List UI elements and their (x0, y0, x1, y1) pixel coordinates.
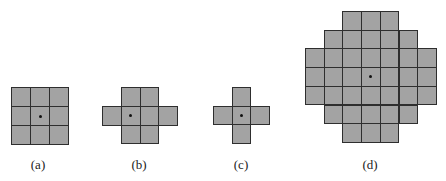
grid-cell (380, 67, 400, 87)
grid-cell (342, 123, 362, 143)
panel-b-label: (b) (131, 157, 146, 173)
grid-cell (380, 86, 400, 106)
grid-cell (305, 48, 325, 68)
grid-cell (361, 30, 381, 50)
grid-cell (399, 30, 419, 50)
grid-cell (361, 105, 381, 125)
grid-cell (324, 67, 344, 87)
grid-cell (102, 106, 122, 126)
origin-dot-icon (39, 115, 42, 118)
grid-cell (342, 48, 362, 68)
grid-cell (361, 86, 381, 106)
grid-cell (11, 106, 31, 126)
grid-cell (250, 106, 270, 126)
grid-cell (11, 125, 31, 145)
grid-cell (380, 30, 400, 50)
grid-cell (213, 106, 233, 126)
grid-cell (49, 87, 69, 107)
grid-cell (324, 105, 344, 125)
grid-cell (417, 67, 437, 87)
grid-cell (324, 30, 344, 50)
grid-cell (399, 48, 419, 68)
grid-cell (158, 106, 178, 126)
grid-cell (232, 87, 252, 107)
grid-cell (140, 125, 160, 145)
grid-cell (324, 48, 344, 68)
grid-cell (342, 11, 362, 31)
grid-cell (140, 106, 160, 126)
grid-cell (324, 86, 344, 106)
grid-cell (232, 124, 252, 144)
grid-cell (417, 48, 437, 68)
panel-d-label: (d) (362, 157, 377, 173)
grid-cell (361, 11, 381, 31)
grid-cell (49, 125, 69, 145)
grid-cell (11, 87, 31, 107)
grid-cell (342, 30, 362, 50)
grid-cell (361, 123, 381, 143)
grid-cell (380, 105, 400, 125)
grid-cell (140, 87, 160, 107)
grid-cell (342, 86, 362, 106)
grid-cell (399, 86, 419, 106)
grid-cell (30, 87, 50, 107)
grid-cell (121, 87, 141, 107)
grid-cell (399, 105, 419, 125)
grid-cell (417, 86, 437, 106)
grid-cell (49, 106, 69, 126)
grid-cell (342, 105, 362, 125)
grid-cell (121, 125, 141, 145)
grid-cell (380, 123, 400, 143)
grid-cell (380, 11, 400, 31)
grid-cell (361, 48, 381, 68)
grid-cell (342, 67, 362, 87)
grid-cell (399, 67, 419, 87)
panel-a-label: (a) (31, 157, 45, 173)
grid-cell (305, 67, 325, 87)
grid-cell (380, 48, 400, 68)
grid-cell (305, 86, 325, 106)
panel-c-label: (c) (234, 157, 248, 173)
grid-cell (30, 125, 50, 145)
